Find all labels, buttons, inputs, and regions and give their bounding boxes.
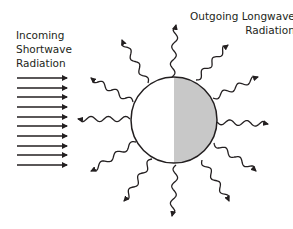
- outgoing-ray-bottom: [170, 165, 177, 216]
- outgoing-ray-upper-left: [122, 40, 149, 83]
- outgoing-ray-top: [170, 25, 177, 77]
- radiation-balance-diagram: [0, 0, 293, 229]
- outgoing-ray-right-upper: [213, 77, 258, 99]
- outgoing-ray-right: [217, 120, 268, 126]
- planet-circle: [131, 77, 217, 163]
- outgoing-ray-upper-right: [196, 45, 228, 80]
- incoming-shortwave-arrows: [17, 78, 67, 165]
- planet-night-side: [174, 77, 217, 163]
- outgoing-ray-left-lower: [91, 142, 136, 171]
- outgoing-ray-lower-right: [202, 160, 229, 201]
- outgoing-ray-left-upper: [91, 78, 133, 102]
- outgoing-ray-lower-left: [124, 159, 152, 201]
- outgoing-ray-right-lower: [214, 143, 256, 171]
- outgoing-ray-left: [78, 116, 130, 121]
